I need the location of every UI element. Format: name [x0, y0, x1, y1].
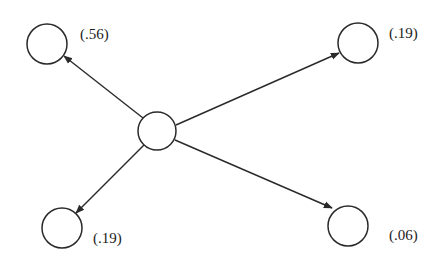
- edge-root-to-bottom-right: [175, 140, 332, 208]
- node-top-right: [338, 23, 378, 63]
- probability-label-bottom-left: (.19): [93, 231, 122, 246]
- node-top-left: [27, 24, 67, 64]
- node-root: [138, 112, 176, 150]
- node-bottom-right: [328, 206, 368, 246]
- node-bottom-left: [42, 208, 82, 248]
- edge-root-to-top-right: [176, 53, 339, 125]
- tree-diagram: [0, 0, 446, 256]
- probability-label-bottom-right: (.06): [389, 228, 418, 243]
- probability-label-top-right: (.19): [389, 26, 418, 41]
- edge-root-to-top-left: [64, 56, 143, 118]
- probability-label-top-left: (.56): [80, 27, 109, 42]
- edge-root-to-bottom-left: [76, 145, 144, 213]
